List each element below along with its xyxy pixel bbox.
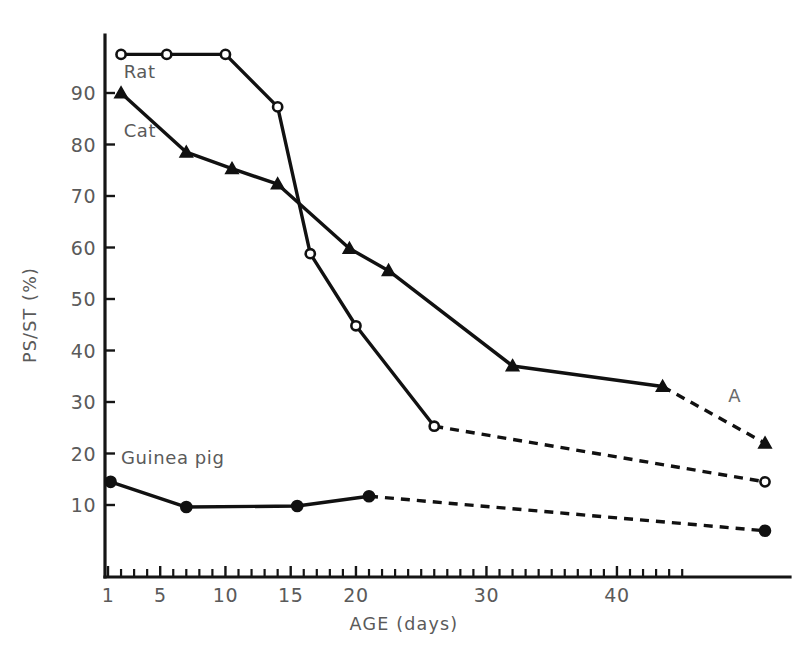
y-tick-label: 20 bbox=[71, 443, 96, 465]
series-inline-labels: RatCatGuinea pig bbox=[121, 61, 224, 468]
y-tick-label: 10 bbox=[71, 494, 96, 516]
series-label-guinea-pig: Guinea pig bbox=[121, 447, 224, 468]
chart-series-rat bbox=[116, 50, 769, 487]
data-point-open-circle bbox=[162, 50, 171, 59]
x-tick-label: 40 bbox=[604, 584, 629, 606]
x-tick-label: 30 bbox=[474, 584, 499, 606]
y-axis-title: PS/ST (%) bbox=[20, 267, 40, 363]
chart-axes bbox=[105, 35, 790, 577]
data-point-open-circle bbox=[116, 50, 125, 59]
series-label-rat: Rat bbox=[124, 61, 156, 82]
y-tick-label: 40 bbox=[71, 340, 96, 362]
data-point-filled-circle bbox=[105, 477, 115, 487]
data-point-filled-circle bbox=[292, 501, 302, 511]
data-point-open-circle bbox=[221, 50, 230, 59]
data-point-filled-circle bbox=[181, 502, 191, 512]
y-tick-label: 90 bbox=[71, 82, 96, 104]
data-point-open-circle bbox=[273, 102, 282, 111]
y-tick-label: 50 bbox=[71, 288, 96, 310]
x-axis-title: AGE (days) bbox=[350, 614, 459, 634]
y-tick-label: 30 bbox=[71, 391, 96, 413]
data-point-open-circle bbox=[351, 321, 360, 330]
line-chart-svg: 102030405060708090 151015203040 RatCatGu… bbox=[0, 0, 809, 665]
y-axis-tick-labels: 102030405060708090 bbox=[71, 82, 96, 516]
x-tick-label: 1 bbox=[102, 584, 115, 606]
data-point-open-circle bbox=[306, 249, 315, 258]
series-label-cat: Cat bbox=[124, 120, 156, 141]
data-point-filled-circle bbox=[364, 491, 374, 501]
annotation-label: A bbox=[728, 385, 741, 406]
chart-series-guinea-pig bbox=[105, 477, 770, 536]
chart-series-cat bbox=[115, 87, 771, 448]
x-tick-label: 15 bbox=[278, 584, 303, 606]
chart-figure: 102030405060708090 151015203040 RatCatGu… bbox=[0, 0, 809, 665]
data-point-open-circle bbox=[760, 477, 769, 486]
series-solid-line bbox=[121, 93, 663, 387]
data-point-filled-circle bbox=[760, 526, 770, 536]
series-dashed-line bbox=[369, 496, 765, 531]
series-solid-line bbox=[111, 482, 369, 507]
x-axis-ticks bbox=[108, 566, 682, 577]
series-dashed-line bbox=[434, 426, 765, 482]
x-tick-label: 10 bbox=[213, 584, 238, 606]
x-axis-tick-labels: 151015203040 bbox=[102, 584, 630, 606]
series-dashed-line bbox=[663, 387, 765, 444]
x-tick-label: 20 bbox=[343, 584, 368, 606]
data-point-open-circle bbox=[430, 422, 439, 431]
y-tick-label: 60 bbox=[71, 237, 96, 259]
chart-annotations: A bbox=[728, 385, 741, 406]
y-tick-label: 80 bbox=[71, 134, 96, 156]
x-tick-label: 5 bbox=[154, 584, 167, 606]
data-point-filled-triangle bbox=[115, 87, 127, 98]
y-tick-label: 70 bbox=[71, 185, 96, 207]
